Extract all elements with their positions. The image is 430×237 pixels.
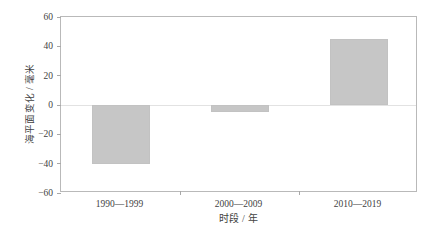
y-tick-mark [57, 105, 61, 106]
y-tick-label: 40 [9, 39, 53, 53]
y-tick-label: −60 [9, 186, 53, 200]
y-tick-mark [57, 75, 61, 76]
bar [330, 39, 388, 105]
y-tick-mark [57, 17, 61, 18]
y-tick-mark [57, 163, 61, 164]
y-tick-mark [57, 193, 61, 194]
x-axis-title: 时段 / 年 [60, 212, 417, 226]
x-tick-label: 1990—1999 [60, 198, 180, 211]
x-tick-label: 2010—2019 [298, 198, 418, 211]
x-tick-label: 2000—2009 [179, 198, 299, 211]
bar [92, 105, 150, 164]
y-tick-mark [57, 46, 61, 47]
plot-area: 6040200−20−40−60 [60, 16, 417, 192]
bar-chart: 海平面变化 / 毫米 6040200−20−40−60 时段 / 年 1990—… [0, 0, 430, 237]
x-tick-mark [180, 191, 181, 195]
x-tick-mark [299, 191, 300, 195]
y-tick-label: −40 [9, 157, 53, 171]
y-tick-label: 60 [9, 10, 53, 24]
bar [211, 105, 269, 112]
y-tick-mark [57, 134, 61, 135]
y-tick-label: 0 [9, 98, 53, 112]
y-tick-label: −20 [9, 127, 53, 141]
y-tick-label: 20 [9, 69, 53, 83]
